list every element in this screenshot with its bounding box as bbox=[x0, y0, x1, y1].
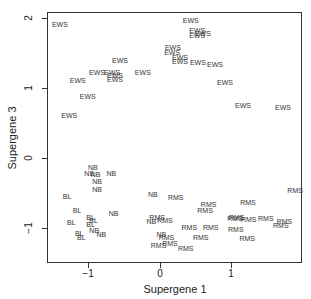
data-point-ews: EWS bbox=[135, 68, 151, 75]
data-point-bl: BL bbox=[86, 220, 95, 227]
data-point-nb: NB bbox=[109, 210, 119, 217]
data-point-ews: EWS bbox=[275, 103, 291, 110]
y-tick-label: 2 bbox=[23, 15, 34, 21]
data-point-nb: NB bbox=[91, 171, 101, 178]
data-point-rms: RMS bbox=[149, 213, 165, 220]
data-point-ews: EWS bbox=[172, 57, 188, 64]
data-point-ews: EWS bbox=[52, 21, 68, 28]
data-point-ews: EWS bbox=[89, 68, 105, 75]
data-point-ews: EWS bbox=[183, 17, 199, 24]
data-point-nb: NB bbox=[92, 178, 102, 185]
data-point-ews: EWS bbox=[107, 75, 123, 82]
data-point-ews: EWS bbox=[70, 77, 86, 84]
data-point-rms: RMS bbox=[228, 225, 244, 232]
y-tick-label: 0 bbox=[23, 155, 34, 161]
data-point-nb: NB bbox=[107, 170, 117, 177]
data-point-ews: EWS bbox=[112, 57, 128, 64]
data-point-bl: BL bbox=[77, 234, 86, 241]
y-tick bbox=[42, 158, 47, 159]
y-tick bbox=[42, 88, 47, 89]
data-point-ews: EWS bbox=[207, 61, 223, 68]
y-tick bbox=[42, 228, 47, 229]
data-point-ews: EWS bbox=[80, 92, 96, 99]
x-tick-label: 0 bbox=[157, 268, 163, 279]
data-point-rms: RMS bbox=[182, 223, 198, 230]
data-point-bl: BL bbox=[73, 206, 82, 213]
data-point-nb: NB bbox=[92, 185, 102, 192]
data-point-ews: EWS bbox=[217, 78, 233, 85]
data-point-rms: RMS bbox=[197, 206, 213, 213]
data-point-rms: RMS bbox=[151, 241, 167, 248]
y-tick-label: 1 bbox=[23, 85, 34, 91]
data-point-bl: BL bbox=[63, 192, 72, 199]
data-point-nb: NB bbox=[96, 231, 106, 238]
data-point-rms: RMS bbox=[240, 199, 256, 206]
data-point-rms: RMS bbox=[273, 221, 289, 228]
y-tick-label: −1 bbox=[23, 222, 34, 233]
data-point-bl: BL bbox=[67, 219, 76, 226]
data-point-ews: EWS bbox=[61, 112, 77, 119]
x-tick-label: −1 bbox=[82, 268, 93, 279]
data-point-ews: EWS bbox=[190, 59, 206, 66]
data-point-rms: RMS bbox=[193, 234, 209, 241]
y-tick bbox=[42, 18, 47, 19]
data-point-rms: RMS bbox=[258, 215, 274, 222]
x-axis-label: Supergene 1 bbox=[144, 283, 207, 295]
data-point-ews: EWS bbox=[189, 31, 205, 38]
data-point-rms: RMS bbox=[287, 187, 303, 194]
data-point-nb: NB bbox=[148, 190, 158, 197]
data-point-ews: EWS bbox=[235, 101, 251, 108]
data-point-rms: RMS bbox=[239, 234, 255, 241]
data-point-rms: RMS bbox=[178, 244, 194, 251]
data-point-rms: RMS bbox=[241, 215, 257, 222]
y-axis-label: Supergene 3 bbox=[6, 107, 18, 170]
data-point-rms: RMS bbox=[168, 194, 184, 201]
data-point-rms: RMS bbox=[203, 223, 219, 230]
x-tick-label: 1 bbox=[228, 268, 234, 279]
